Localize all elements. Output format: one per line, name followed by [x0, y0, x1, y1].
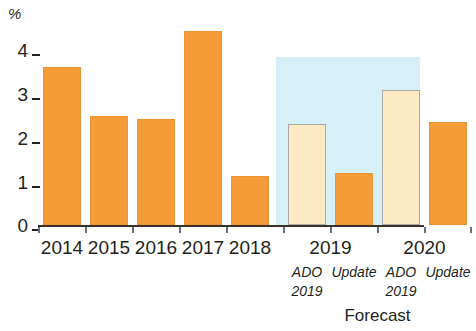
x-axis-tick — [132, 227, 134, 233]
x-axis-line — [38, 225, 424, 227]
x-axis-tick — [179, 227, 181, 233]
x-axis-sublabel-year: 2019 — [366, 283, 436, 300]
x-axis-tick — [38, 227, 40, 233]
bar-2019-ado — [288, 124, 326, 225]
x-axis-label-2018: 2018 — [210, 237, 290, 259]
x-axis-tick — [377, 227, 379, 233]
bar-2018 — [231, 176, 269, 225]
y-axis-tick-3: 3 — [0, 85, 42, 105]
y-axis-tick-label-3: 3 — [17, 85, 28, 105]
bar-2014 — [43, 67, 81, 225]
y-axis-tick-4: 4 — [0, 41, 42, 61]
y-axis-tick-mark-4 — [32, 54, 40, 56]
x-axis-tick — [470, 227, 472, 233]
x-axis-tick — [330, 227, 332, 233]
forecast-caption: Forecast — [308, 306, 448, 326]
x-axis-label-2019: 2019 — [291, 237, 371, 259]
bar-2020-ado — [382, 90, 420, 225]
y-axis-tick-label-1: 1 — [17, 173, 28, 193]
y-axis-tick-0: 0 — [0, 216, 42, 236]
bar-2017 — [184, 31, 222, 225]
y-axis-tick-label-0: 0 — [17, 216, 28, 236]
bar-2015 — [90, 116, 128, 225]
plot-area — [40, 18, 422, 225]
x-axis-sublabel-update: Update — [413, 264, 476, 281]
bar-2016 — [137, 119, 175, 225]
x-axis-tick — [283, 227, 285, 233]
x-axis-tick — [85, 227, 87, 233]
y-axis-tick-label-4: 4 — [17, 41, 28, 61]
y-axis-tick-2: 2 — [0, 129, 42, 149]
bar-2020-update — [429, 122, 467, 226]
y-axis-tick-mark-1 — [32, 186, 40, 188]
y-axis-unit-label: % — [8, 6, 21, 21]
x-axis-tick — [226, 227, 228, 233]
x-axis-tick — [424, 227, 426, 233]
x-axis-label-2020: 2020 — [385, 237, 465, 259]
y-axis-tick-mark-3 — [32, 98, 40, 100]
y-axis-tick-label-2: 2 — [17, 129, 28, 149]
bar-2019-update — [335, 173, 373, 225]
x-axis-sublabel-year: 2019 — [272, 283, 342, 300]
y-axis-tick-mark-2 — [32, 142, 40, 144]
y-axis-tick-1: 1 — [0, 173, 42, 193]
